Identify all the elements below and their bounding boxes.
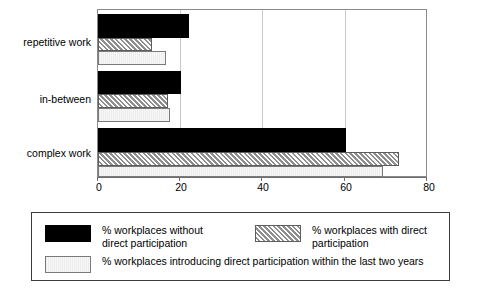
legend-swatch-black-icon xyxy=(45,225,91,242)
chart-legend: % workplaces without direct participatio… xyxy=(31,212,450,281)
legend-item-introducing-direct-participation: % workplaces introducing direct particip… xyxy=(45,255,424,273)
legend-label-without-direct-participation: % workplaces without direct participatio… xyxy=(102,224,203,249)
bar-in-between-introducing xyxy=(98,108,170,122)
legend-label-with-direct-participation: % workplaces with direct participation xyxy=(312,224,427,249)
bar-complex-work-introducing xyxy=(98,166,383,177)
bar-chart: repetitive work in-between complex work … xyxy=(0,0,479,294)
legend-item-with-direct-participation: % workplaces with direct participation xyxy=(255,224,427,249)
x-tick-label-60: 60 xyxy=(340,181,352,193)
category-axis-labels: repetitive work in-between complex work xyxy=(0,0,91,177)
bar-complex-work-without xyxy=(98,128,346,152)
bar-in-between-with xyxy=(98,94,168,108)
plot-area xyxy=(97,9,427,177)
category-label-in-between: in-between xyxy=(0,94,91,105)
bar-in-between-without xyxy=(98,71,181,94)
bar-repetitive-work-introducing xyxy=(98,51,166,65)
x-tick-label-20: 20 xyxy=(175,181,187,193)
category-label-complex-work: complex work xyxy=(0,148,91,159)
legend-label-introducing-direct-participation: % workplaces introducing direct particip… xyxy=(102,255,424,268)
x-tick-label-0: 0 xyxy=(96,181,102,193)
bar-repetitive-work-without xyxy=(98,14,189,38)
legend-swatch-light-icon xyxy=(45,256,91,273)
legend-swatch-hatched-icon xyxy=(255,225,301,242)
legend-item-without-direct-participation: % workplaces without direct participatio… xyxy=(45,224,203,249)
x-axis-line xyxy=(97,177,427,178)
bar-repetitive-work-with xyxy=(98,38,152,51)
x-tick-label-80: 80 xyxy=(423,181,435,193)
bar-complex-work-with xyxy=(98,152,399,166)
category-label-repetitive-work: repetitive work xyxy=(0,37,91,48)
x-tick-label-40: 40 xyxy=(257,181,269,193)
